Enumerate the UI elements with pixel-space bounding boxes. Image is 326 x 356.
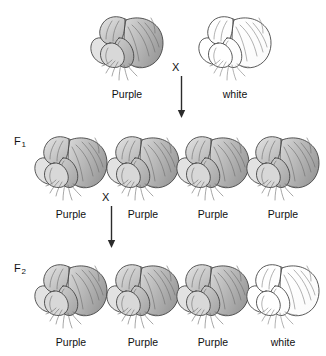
cross-arrow-parental-cross	[177, 76, 186, 118]
flower-f2-2-purple	[104, 258, 182, 334]
phenotype-label-f1-3: Purple	[174, 208, 252, 220]
flower-f2-4-white	[244, 258, 322, 334]
phenotype-label-f2-4: white	[244, 336, 322, 348]
cross-arrow-f1-cross	[107, 206, 116, 248]
phenotype-label-f2-1: Purple	[32, 336, 110, 348]
cross-symbol-f1-cross: X	[102, 192, 109, 203]
flower-f1-1-purple	[32, 130, 110, 206]
phenotype-label-f2-3: Purple	[174, 336, 252, 348]
flower-f1-2-purple	[104, 130, 182, 206]
flower-parental-2-white	[196, 10, 274, 86]
generation-label-f2: F2	[14, 262, 26, 274]
flower-parental-1-purple	[88, 10, 166, 86]
flower-f1-3-purple	[174, 130, 252, 206]
generation-label-f1: F1	[14, 135, 26, 147]
flower-f1-4-purple	[244, 130, 322, 206]
phenotype-label-parental-2: white	[196, 88, 274, 100]
cross-symbol-parental-cross: X	[172, 62, 179, 73]
flower-f2-1-purple	[32, 258, 110, 334]
phenotype-label-f1-1: Purple	[32, 208, 110, 220]
phenotype-label-f2-2: Purple	[104, 336, 182, 348]
phenotype-label-parental-1: Purple	[88, 88, 166, 100]
genetics-cross-diagram: Purple	[0, 0, 326, 356]
phenotype-label-f1-4: Purple	[244, 208, 322, 220]
flower-f2-3-purple	[174, 258, 252, 334]
